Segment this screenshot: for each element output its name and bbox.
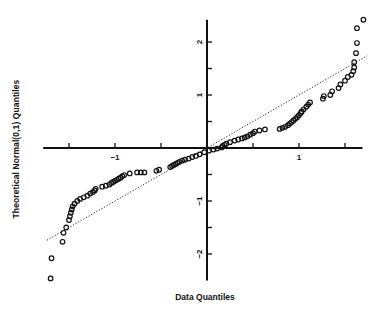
data-point xyxy=(355,41,360,46)
data-point xyxy=(355,26,360,31)
y-tick-label: −1 xyxy=(195,196,204,206)
data-point xyxy=(48,276,53,281)
data-point xyxy=(361,17,366,22)
x-tick-label: 1 xyxy=(297,153,302,162)
data-point xyxy=(127,171,132,176)
y-tick-label: −2 xyxy=(195,249,204,259)
y-tick-label: 1 xyxy=(195,92,204,97)
y-tick-label: 2 xyxy=(195,39,204,44)
qq-plot: −11−2−112 xyxy=(0,0,379,312)
data-point xyxy=(64,225,69,230)
x-axis-label: Data Quantiles xyxy=(120,292,290,302)
data-point xyxy=(49,256,54,261)
data-point xyxy=(202,150,207,155)
y-axis-label: Theoretical Normal(0,1) Quantiles xyxy=(11,49,25,249)
data-point xyxy=(354,51,359,56)
data-point xyxy=(263,127,268,132)
data-point xyxy=(257,128,262,133)
data-point xyxy=(60,240,65,245)
x-tick-label: −1 xyxy=(110,153,120,162)
